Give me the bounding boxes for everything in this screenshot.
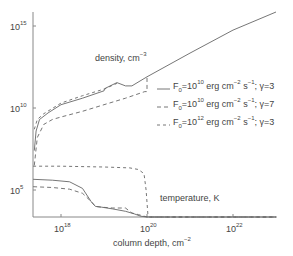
legend-label-2: F0=1010 erg cm−2 s−1; γ=7 — [173, 97, 274, 111]
legend: F0=1010 erg cm−2 s−1; γ=3F0=1010 erg cm−… — [157, 79, 274, 129]
curve-density-series-2 — [34, 75, 147, 165]
x-axis-label: column depth, cm−2 — [113, 236, 192, 248]
x-tick-label: 1020 — [140, 222, 157, 234]
curve-temperature-series-3 — [33, 166, 276, 217]
y-tick-label: 105 — [10, 184, 24, 196]
x-tick-label: 1018 — [54, 222, 71, 234]
y-tick-label: 1010 — [10, 102, 27, 114]
chart-plot: 10181020102210510101015column depth, cm−… — [0, 0, 293, 256]
legend-label-1: F0=1010 erg cm−2 s−1; γ=3 — [173, 79, 274, 93]
y-tick-label: 1015 — [10, 20, 27, 32]
curve-temperature-series-1 — [33, 179, 276, 217]
temperature-annotation: temperature, K — [160, 193, 220, 203]
curve-temperature-series-2 — [33, 187, 276, 217]
annotations: density, cm−3temperature, K — [95, 51, 220, 203]
x-tick-label: 1022 — [226, 222, 243, 234]
density-annotation: density, cm−3 — [95, 51, 147, 63]
legend-label-3: F0=1012 erg cm−2 s−1; γ=3 — [173, 115, 274, 129]
